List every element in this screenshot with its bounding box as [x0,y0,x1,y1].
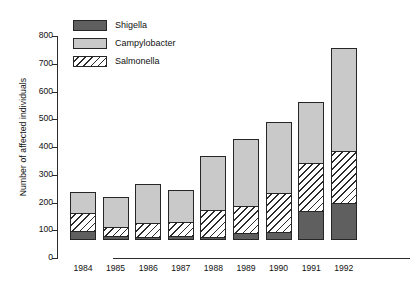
legend-label-salmonella: Salmonella [115,56,160,66]
y-axis-tick-label: 100 [19,224,53,234]
bar-segment-salmonella-1991 [298,163,324,212]
bar-segment-salmonella-1988 [200,210,226,238]
bar-segment-shigella-1984 [70,231,96,240]
bar-segment-shigella-1990 [266,232,292,240]
bar-1991 [298,103,324,240]
bar-segment-campylobacter-1991 [298,102,324,164]
bar-segment-shigella-1991 [298,211,324,240]
bar-segment-shigella-1992 [331,203,357,240]
y-axis-tick-label: 300 [19,169,53,179]
y-axis-tick-label: 800 [19,30,53,40]
bar-1989 [233,140,259,240]
y-axis-tick-label: 600 [19,86,53,96]
bar-segment-campylobacter-1987 [168,190,194,223]
bar-1990 [266,123,292,240]
bar-segment-campylobacter-1988 [200,156,226,211]
legend-swatch-shigella [73,20,107,31]
legend-swatch-salmonella [73,56,107,67]
y-axis-tick-label: 700 [19,58,53,68]
legend: ShigellaCampylobacterSalmonella [73,17,176,71]
legend-item-shigella: Shigella [73,17,176,33]
bar-1992 [331,49,357,240]
legend-label-campylobacter: Campylobacter [115,38,176,48]
bar-segment-salmonella-1992 [331,151,357,204]
legend-swatch-campylobacter [73,38,107,49]
y-axis-tick-label: 0 [19,252,53,262]
bar-segment-salmonella-1990 [266,193,292,233]
y-axis-tick-label: 400 [19,141,53,151]
bar-segment-campylobacter-1984 [70,192,96,214]
bar-segment-campylobacter-1990 [266,122,292,194]
y-axis-tick-label: 500 [19,113,53,123]
bar-1987 [168,191,194,240]
bar-segment-salmonella-1986 [135,223,161,238]
bar-segment-campylobacter-1985 [103,197,129,227]
bar-segment-salmonella-1989 [233,206,259,234]
bar-segment-campylobacter-1989 [233,139,259,207]
bar-segment-campylobacter-1992 [331,48,357,153]
bar-1984 [70,193,96,240]
bar-1985 [103,198,129,240]
x-axis-label-1992: 1992 [324,263,364,273]
legend-label-shigella: Shigella [115,20,147,30]
legend-item-salmonella: Salmonella [73,53,176,69]
y-axis-line [57,36,58,259]
bar-segment-campylobacter-1986 [135,184,161,224]
bar-segment-salmonella-1987 [168,222,194,236]
bar-segment-salmonella-1985 [103,227,129,237]
bar-1988 [200,157,226,240]
x-axis-line [113,258,410,259]
legend-item-campylobacter: Campylobacter [73,35,176,51]
bar-1986 [135,185,161,240]
bar-segment-salmonella-1984 [70,213,96,232]
y-axis-tick-label: 200 [19,197,53,207]
